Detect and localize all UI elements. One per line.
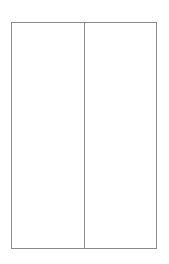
two-column-layout-frame bbox=[11, 22, 157, 249]
right-column-content bbox=[85, 23, 157, 248]
left-column-panel[interactable] bbox=[12, 23, 84, 248]
left-column-content bbox=[12, 23, 84, 248]
page-root bbox=[0, 0, 169, 264]
right-column-panel[interactable] bbox=[85, 23, 157, 248]
